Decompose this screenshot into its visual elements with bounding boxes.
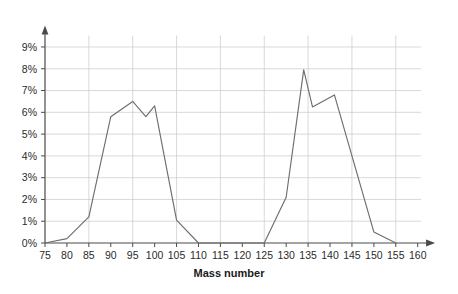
grid-lines	[45, 36, 421, 243]
x-tick-label: 105	[168, 249, 186, 261]
x-tick-label: 85	[83, 249, 95, 261]
y-tick-label: 7%	[22, 84, 37, 96]
y-tick-label: 6%	[22, 106, 37, 118]
x-tick-label: 135	[299, 249, 317, 261]
tick-marks	[41, 47, 418, 247]
x-tick-label: 150	[365, 249, 383, 261]
y-tick-label: 3%	[22, 171, 37, 183]
x-tick-label: 130	[277, 249, 295, 261]
y-tick-label: 0%	[22, 237, 37, 249]
x-tick-label: 140	[321, 249, 339, 261]
y-tick-label: 4%	[22, 150, 37, 162]
x-axis-arrow-icon	[426, 240, 435, 247]
x-tick-label: 145	[343, 249, 361, 261]
x-tick-label: 95	[127, 249, 139, 261]
fission-yield-line-chart: 0%1%2%3%4%5%6%7%8%9%75808590951001051101…	[0, 0, 458, 294]
y-tick-label: 5%	[22, 128, 37, 140]
x-tick-label: 110	[190, 249, 207, 261]
x-tick-label: 120	[234, 249, 252, 261]
y-tick-label: 8%	[22, 63, 37, 75]
x-tick-label: 80	[61, 249, 73, 261]
x-tick-label: 160	[409, 249, 427, 261]
x-tick-label: 90	[105, 249, 117, 261]
y-axis-arrow-icon	[42, 26, 49, 35]
x-tick-label: 155	[387, 249, 405, 261]
chart-screen: 0%1%2%3%4%5%6%7%8%9%75808590951001051101…	[0, 0, 458, 294]
x-tick-label: 75	[39, 249, 51, 261]
x-tick-label: 115	[212, 249, 229, 261]
x-tick-label: 100	[146, 249, 164, 261]
axes	[42, 26, 435, 247]
x-tick-label: 125	[255, 249, 273, 261]
y-tick-label: 1%	[22, 215, 37, 227]
tick-labels: 0%1%2%3%4%5%6%7%8%9%75808590951001051101…	[22, 41, 427, 261]
x-axis-title: Mass number	[194, 267, 266, 279]
y-tick-label: 2%	[22, 193, 37, 205]
y-tick-label: 9%	[22, 41, 37, 53]
